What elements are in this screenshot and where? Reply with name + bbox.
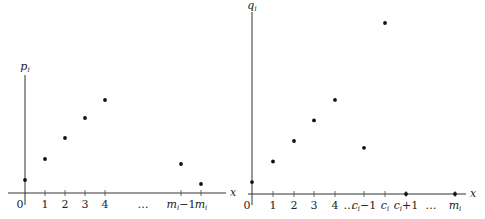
left-data-point	[83, 116, 87, 120]
right-tick-label: 1	[270, 199, 277, 212]
left-tick-label: 1	[42, 198, 49, 211]
right-tick-label: ci−1	[352, 199, 377, 213]
right-data-point	[312, 119, 316, 123]
left-tick-label: mi−1	[167, 198, 196, 212]
right-tick-label: 2	[291, 199, 298, 212]
right-data-point	[362, 146, 366, 150]
left-plot-p: pix01234…mi−1mi	[8, 60, 237, 212]
right-data-point	[250, 180, 254, 184]
right-x-axis-label: x	[470, 187, 477, 200]
right-data-point	[271, 160, 275, 164]
right-data-point	[453, 192, 457, 196]
left-tick-label: mi	[195, 198, 208, 212]
right-data-point	[383, 21, 387, 25]
left-data-point	[63, 136, 67, 140]
left-data-point	[23, 178, 27, 182]
left-tick-label: 0	[17, 198, 24, 211]
right-tick-label: 0	[244, 199, 251, 212]
right-tick-label: …	[426, 199, 437, 212]
left-data-point	[43, 157, 47, 161]
right-tick-label: 4	[332, 199, 339, 212]
figure: pix01234…mi−1mi qix01234…ci−1cici+1…mi	[0, 0, 485, 219]
right-tick-label: ci+1	[394, 199, 419, 213]
left-tick-label: 2	[62, 198, 69, 211]
left-y-axis-label: pi	[20, 60, 29, 74]
left-data-point	[199, 182, 203, 186]
left-data-point	[179, 162, 183, 166]
left-x-axis-label: x	[230, 186, 237, 199]
right-tick-label: ci	[381, 199, 389, 213]
right-data-point	[404, 192, 408, 196]
right-tick-label: 3	[311, 199, 318, 212]
left-data-point	[103, 98, 107, 102]
right-tick-label: mi	[449, 199, 462, 213]
right-data-point	[292, 139, 296, 143]
right-y-axis-label: qi	[247, 0, 256, 13]
left-tick-label: 4	[102, 198, 109, 211]
left-tick-label: …	[138, 198, 149, 211]
right-data-point	[333, 98, 337, 102]
right-plot-q: qix01234…ci−1cici+1…mi	[244, 0, 478, 213]
left-tick-label: 3	[82, 198, 89, 211]
